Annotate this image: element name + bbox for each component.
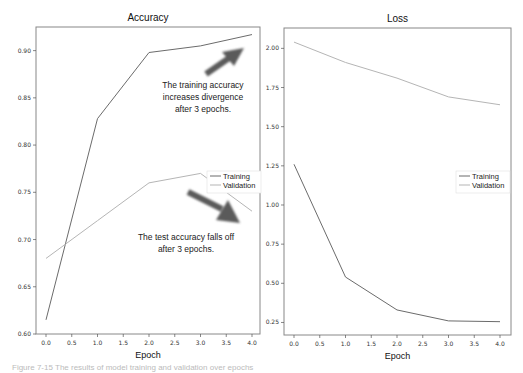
y-tick-label: 2.00 — [266, 44, 280, 51]
x-tick-label: 1.5 — [366, 340, 376, 347]
x-tick-label: 1.5 — [118, 339, 128, 346]
chart-panel-loss: Loss0.00.51.01.52.02.53.03.54.00.250.500… — [266, 13, 511, 361]
legend-item-training: Training — [223, 172, 250, 181]
y-tick-label: 0.25 — [266, 318, 280, 325]
y-tick-label: 0.70 — [18, 236, 32, 243]
x-tick-label: 3.5 — [469, 340, 479, 347]
x-tick-label: 0.0 — [41, 339, 51, 346]
x-tick-label: 2.5 — [418, 340, 428, 347]
x-tick-label: 2.0 — [392, 340, 402, 347]
annotation-training-text: increases divergence — [163, 92, 244, 102]
x-tick-label: 4.0 — [247, 339, 257, 346]
x-tick-label: 0.0 — [289, 340, 299, 347]
y-tick-label: 0.90 — [18, 47, 32, 54]
legend: TrainingValidation — [207, 171, 261, 193]
x-tick-label: 0.5 — [67, 339, 77, 346]
y-tick-label: 0.60 — [18, 330, 32, 337]
x-tick-label: 2.0 — [144, 339, 154, 346]
y-tick-label: 0.65 — [18, 283, 32, 290]
x-tick-label: 3.0 — [196, 339, 206, 346]
y-tick-label: 0.75 — [18, 188, 32, 195]
x-axis-label: Epoch — [385, 351, 411, 361]
x-tick-label: 1.0 — [93, 339, 103, 346]
chart-title: Accuracy — [127, 12, 168, 23]
y-tick-label: 0.85 — [18, 94, 32, 101]
annotation-test-text: after 3 epochs. — [158, 244, 214, 254]
y-tick-label: 0.80 — [18, 141, 32, 148]
x-tick-label: 1.0 — [341, 340, 351, 347]
chart-title: Loss — [387, 13, 408, 24]
legend: TrainingValidation — [456, 171, 510, 193]
x-tick-label: 3.0 — [444, 340, 454, 347]
y-tick-label: 1.00 — [266, 201, 280, 208]
x-tick-label: 4.0 — [495, 340, 505, 347]
chart-canvas: Accuracy0.00.51.01.52.02.53.03.54.00.600… — [0, 0, 523, 373]
annotation-training-text: The training accuracy — [162, 80, 244, 90]
annotation-test-text: The test accuracy falls off — [138, 232, 235, 242]
figure-caption: Figure 7-15 The results of model trainin… — [12, 363, 253, 372]
x-tick-label: 2.5 — [170, 339, 180, 346]
x-tick-label: 3.5 — [221, 339, 231, 346]
y-tick-label: 1.50 — [266, 123, 280, 130]
x-tick-label: 0.5 — [315, 340, 325, 347]
y-tick-label: 0.50 — [266, 279, 280, 286]
legend-item-validation: Validation — [223, 181, 255, 190]
y-tick-label: 1.75 — [266, 84, 280, 91]
chart-panel-accuracy: Accuracy0.00.51.01.52.02.53.03.54.00.600… — [18, 12, 261, 360]
legend-item-validation: Validation — [472, 181, 504, 190]
x-axis-label: Epoch — [135, 350, 161, 360]
legend-item-training: Training — [472, 172, 499, 181]
annotation-training-text: after 3 epochs. — [175, 104, 231, 114]
y-tick-label: 1.25 — [266, 162, 280, 169]
y-tick-label: 0.75 — [266, 240, 280, 247]
